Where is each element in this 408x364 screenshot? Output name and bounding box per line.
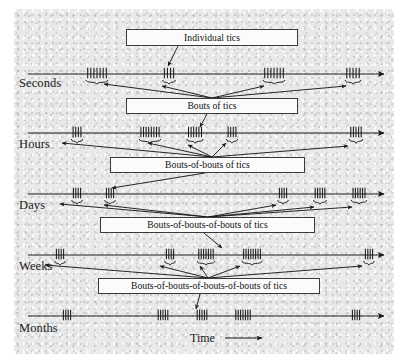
leader-bouts4 <box>45 265 362 278</box>
tic-cluster-hours-0 <box>73 127 81 137</box>
bout-brace-weeks-2 <box>197 261 215 265</box>
bout-brace-hours-2 <box>187 139 203 143</box>
row-label-weeks: Weeks <box>19 259 53 274</box>
bout-brace-weeks-1 <box>165 261 175 265</box>
callout-bouts-of-bouts-of-bouts-of-tics: Bouts-of-bouts-of-bouts of tics <box>100 217 315 233</box>
tic-cluster-months-4 <box>352 310 359 320</box>
callout-bouts-of-tics: Bouts of tics <box>126 98 298 114</box>
leader-individual-tics <box>168 46 178 66</box>
bout-brace-weeks-4 <box>364 261 374 265</box>
bout-brace-weeks-0 <box>55 261 65 265</box>
bout-brace-days-4 <box>351 200 366 204</box>
bout-brace-hours-1 <box>139 139 160 143</box>
tic-cluster-days-0 <box>73 188 80 198</box>
bout-brace-hours-4 <box>349 139 363 143</box>
tic-cluster-weeks-4 <box>365 249 372 259</box>
row-label-months: Months <box>19 321 58 336</box>
leader-line <box>200 114 207 127</box>
tic-cluster-days-3 <box>315 188 325 198</box>
tic-hierarchy-figure: Seconds Hours Days Weeks Months Individu… <box>0 0 408 364</box>
bout-brace-hours-3 <box>227 139 238 143</box>
leader-bouts3-box-to-weeks <box>204 233 222 248</box>
tic-cluster-months-1 <box>158 310 168 320</box>
bout-brace-days-3 <box>314 200 327 204</box>
bout-brace-days-0 <box>72 200 82 204</box>
row-label-hours: Hours <box>19 137 50 152</box>
tic-cluster-hours-4 <box>351 127 361 137</box>
tic-cluster-hours-1 <box>141 127 159 137</box>
tic-cluster-seconds-2 <box>265 68 284 78</box>
leader-line <box>208 266 362 278</box>
tic-cluster-months-0 <box>63 310 70 320</box>
leader-bouts4-box-to-months <box>196 294 200 309</box>
bout-brace-hours-0 <box>72 139 83 143</box>
bout-brace-seconds-1 <box>163 80 176 84</box>
tic-cluster-months-2 <box>197 310 207 320</box>
bout-brace-days-1 <box>105 200 115 204</box>
callout-bouts-of-bouts-of-bouts-of-bouts-of-tics: Bouts-of-bouts-of-bouts-of-bouts of tics <box>98 278 320 294</box>
leader-line <box>62 143 212 157</box>
tic-cluster-days-1 <box>106 188 113 198</box>
leader-bouts-of-tics <box>104 84 346 98</box>
bout-brace-weeks-3 <box>242 261 262 265</box>
tic-cluster-days-2 <box>279 188 286 198</box>
time-axis-label: Time <box>190 331 215 346</box>
tic-cluster-hours-3 <box>228 127 236 137</box>
leader-line <box>204 233 222 248</box>
tic-cluster-weeks-3 <box>244 249 261 259</box>
tic-cluster-seconds-0 <box>88 68 107 78</box>
callout-individual-tics: Individual tics <box>126 29 298 46</box>
tic-cluster-seconds-1 <box>164 68 173 78</box>
tic-cluster-hours-2 <box>189 127 202 137</box>
bout-brace-seconds-0 <box>86 80 108 84</box>
leader-bouts3 <box>60 204 352 217</box>
bout-brace-days-2 <box>278 200 288 204</box>
leader-line <box>212 86 264 98</box>
leader-line <box>212 143 226 157</box>
tic-cluster-weeks-2 <box>199 249 213 259</box>
callout-leader-lines-group <box>45 46 362 309</box>
leader-line <box>104 84 212 98</box>
leader-line <box>148 143 212 157</box>
leader-line <box>208 207 352 217</box>
leader-line <box>212 146 348 157</box>
bout-brace-seconds-3 <box>345 80 361 84</box>
leader-bouts-of-bouts <box>62 143 348 157</box>
leader-line <box>104 205 208 217</box>
leader-line <box>168 46 178 66</box>
leader-line <box>162 86 212 98</box>
tic-cluster-days-4 <box>353 188 365 198</box>
leader-bouts2-box-to-days <box>112 173 205 188</box>
tic-cluster-weeks-1 <box>166 249 173 259</box>
row-label-days: Days <box>19 198 45 213</box>
leader-line <box>212 86 346 98</box>
bout-brace-seconds-2 <box>263 80 285 84</box>
leader-line <box>60 204 208 217</box>
figure-vector-layer <box>0 0 408 364</box>
tic-cluster-months-3 <box>236 310 250 320</box>
leader-line <box>112 173 205 188</box>
tic-cluster-seconds-3 <box>347 68 359 78</box>
tic-cluster-weeks-0 <box>56 249 63 259</box>
leader-line <box>208 205 276 217</box>
leader-line <box>196 294 200 309</box>
leader-bouts-box-to-hours <box>200 114 207 127</box>
callout-bouts-of-bouts-of-tics: Bouts-of-bouts of tics <box>110 157 305 173</box>
row-label-seconds: Seconds <box>19 76 61 91</box>
